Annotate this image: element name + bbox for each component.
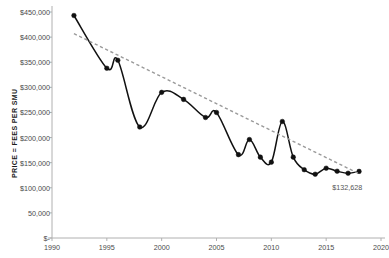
y-axis-tick-label: $150,000 [20,158,50,167]
x-axis-tick-label: 1990 [44,243,60,252]
x-axis-tick-label: 1995 [99,243,115,252]
data-point-label: $132,628 [332,183,362,192]
y-axis-tick-label: $350,000 [20,58,50,67]
chart-plot-area [0,0,389,258]
y-axis-tick-label: $400,000 [20,33,50,42]
x-axis-tick-label: 2010 [263,243,279,252]
y-axis-tick-label: 50,000 [28,208,50,217]
x-axis-tick-label: 2015 [318,243,334,252]
y-axis-tick-label: $- [44,234,50,243]
y-axis-tick-label: $100,000 [20,183,50,192]
chart-container: PRICE = FEES PER SMU $-50,000$100,000$15… [0,0,389,258]
x-axis-tick-label: 2005 [209,243,225,252]
y-axis-tick-label: $200,000 [20,133,50,142]
x-axis-tick-label: 2000 [154,243,170,252]
y-axis-tick-label: $300,000 [20,83,50,92]
y-axis-tick-label: $450,000 [20,8,50,17]
x-axis-tick-label: 2020 [373,243,389,252]
y-axis-tick-label: $250,000 [20,108,50,117]
